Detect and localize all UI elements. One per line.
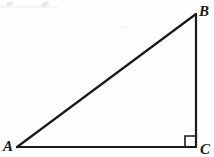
triangle-drawing — [0, 0, 214, 157]
vertex-label-a: A — [3, 139, 13, 154]
right-triangle-figure: A B C — [0, 0, 214, 157]
vertex-label-b: B — [199, 4, 209, 19]
right-angle-square-icon — [185, 136, 196, 147]
triangle-edge-hypotenuse — [17, 14, 196, 147]
vertex-label-c: C — [200, 142, 210, 157]
